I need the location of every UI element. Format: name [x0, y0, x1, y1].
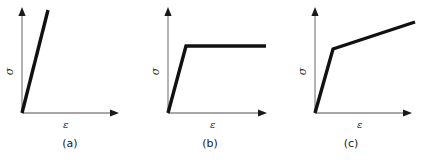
panel-a-plot	[0, 0, 140, 160]
y-axis-arrowhead-icon	[164, 7, 171, 16]
panel-b-plot	[140, 0, 280, 160]
stress-strain-figure: σ ε (a) σ ε (b) σ ε	[0, 0, 421, 160]
stress-strain-curve	[168, 46, 266, 113]
x-axis-label: ε	[63, 120, 68, 130]
panel-c-elastic-linear-hardening: σ ε (c)	[281, 0, 421, 160]
y-axis-label: σ	[150, 65, 161, 79]
x-axis-label: ε	[210, 120, 215, 130]
x-axis-arrowhead-icon	[403, 109, 412, 116]
stress-strain-curve	[315, 22, 415, 113]
panel-caption: (c)	[281, 138, 421, 149]
y-axis-label: σ	[4, 65, 15, 79]
panel-caption: (a)	[0, 138, 140, 149]
panel-c-plot	[281, 0, 421, 160]
y-axis-arrowhead-icon	[18, 7, 25, 16]
panel-b-elastic-perfectly-plastic: σ ε (b)	[140, 0, 280, 160]
panel-caption: (b)	[140, 138, 280, 149]
stress-strain-curve	[22, 10, 48, 113]
x-axis-arrowhead-icon	[110, 109, 119, 116]
x-axis-label: ε	[357, 120, 362, 130]
x-axis-arrowhead-icon	[258, 109, 267, 116]
y-axis-label: σ	[297, 65, 308, 79]
y-axis-arrowhead-icon	[311, 7, 318, 16]
panel-a-linear-elastic: σ ε (a)	[0, 0, 140, 160]
